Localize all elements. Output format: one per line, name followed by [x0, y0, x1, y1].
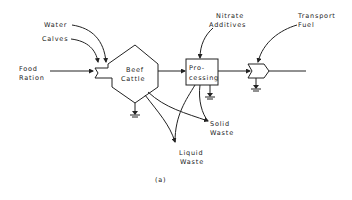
transport-node	[248, 64, 269, 78]
liquid-waste-label-1: Liquid	[179, 149, 203, 157]
water-flow-arrow	[72, 25, 106, 62]
nitrate-additives-flow-arrow	[200, 28, 213, 58]
liquid-waste-label-2: Waste	[180, 158, 204, 166]
nitrate-label-2: Additives	[209, 21, 246, 29]
water-label: Water	[44, 21, 67, 29]
calves-label: Calves	[42, 35, 68, 43]
processing-label-2: cessing	[189, 74, 219, 82]
solid-waste-label-1: Solid	[210, 120, 230, 128]
solid-waste-label-2: Waste	[210, 129, 234, 137]
transport-label-2: Fuel	[298, 21, 315, 29]
processing-label-1: Pro-	[189, 64, 205, 72]
transport-label-1: Transport	[297, 12, 336, 20]
beef-liquid-waste-arrow	[145, 95, 175, 142]
nitrate-label-1: Nitrate	[216, 12, 244, 20]
energy-flow-diagram: Water Calves Food Ration Nitrate Additiv…	[0, 0, 352, 200]
calves-flow-arrow	[71, 39, 98, 62]
food-ration-label-1: Food	[19, 65, 38, 73]
beef-cattle-label-2: Cattle	[121, 75, 145, 83]
beef-heat-sink-icon	[130, 111, 140, 117]
figure-caption: (a)	[155, 176, 166, 184]
food-ration-label-2: Ration	[19, 74, 45, 82]
transport-fuel-flow-arrow	[258, 25, 297, 62]
processing-heat-sink-icon	[205, 93, 215, 99]
processing-solid-waste-curve	[199, 85, 208, 121]
beef-cattle-label-1: Beef	[126, 66, 144, 74]
transport-heat-sink-icon	[251, 85, 261, 91]
beef-solid-waste-arrow	[148, 92, 208, 121]
